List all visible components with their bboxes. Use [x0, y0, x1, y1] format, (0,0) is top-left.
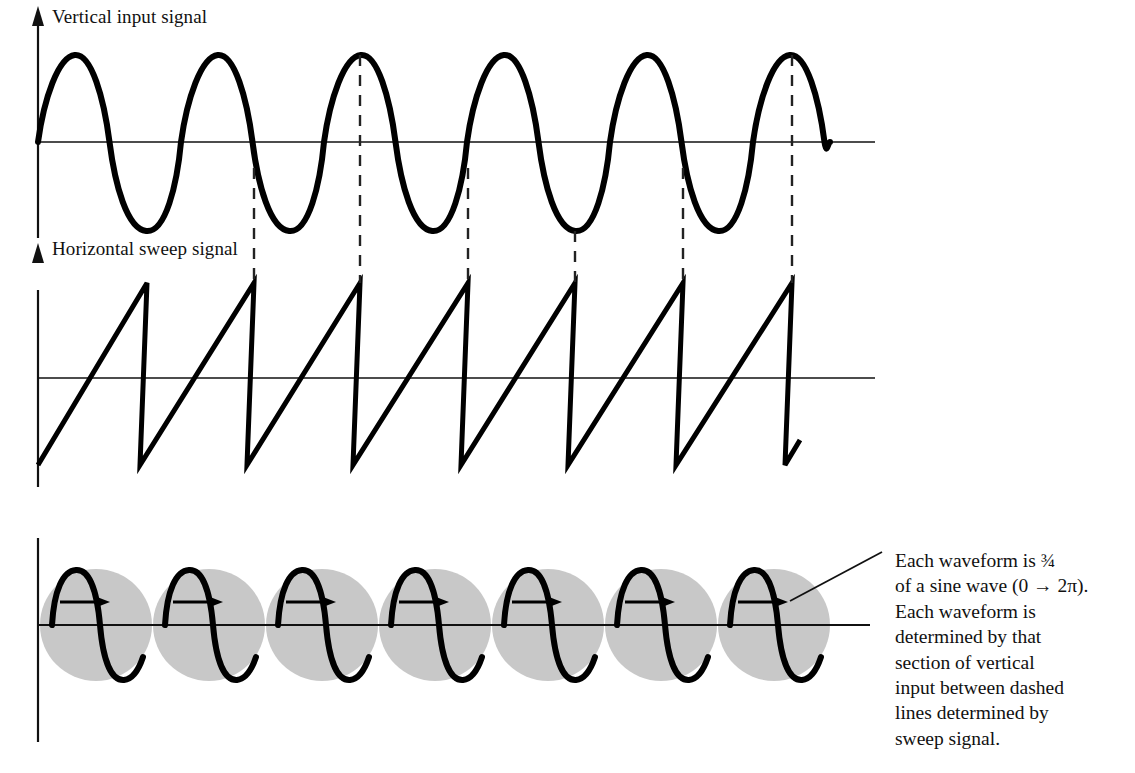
- axis-arrowhead-icon-mid: [32, 243, 44, 263]
- caption-line: input between dashed: [895, 675, 1135, 700]
- caption-line: determined by that: [895, 624, 1135, 649]
- panel-horizontal-sweep: [32, 243, 875, 487]
- vertical-input-sine-curve: [38, 55, 830, 231]
- caption-line: Each waveform is ¾: [895, 548, 1135, 573]
- caption-line: section of vertical: [895, 650, 1135, 675]
- caption-line: sweep signal.: [895, 726, 1135, 751]
- panel-vertical-input: [32, 6, 875, 238]
- caption-text-block: Each waveform is ¾ of a sine wave (0 → 2…: [895, 548, 1135, 751]
- figure-page: Vertical input signal Horizontal sweep s…: [0, 0, 1135, 773]
- horizontal-sweep-sawtooth-curve: [38, 283, 800, 465]
- axis-arrowhead-icon-top: [32, 6, 44, 26]
- caption-line: Each waveform is: [895, 599, 1135, 624]
- caption-line: lines determined by: [895, 700, 1135, 725]
- panel-label-horizontal-sweep: Horizontal sweep signal: [52, 238, 238, 260]
- caption-line: of a sine wave (0 → 2π).: [895, 573, 1135, 598]
- panel-label-vertical-input: Vertical input signal: [52, 6, 207, 28]
- panel-crt-traces: [38, 538, 882, 742]
- caption-leader-line: [790, 552, 882, 601]
